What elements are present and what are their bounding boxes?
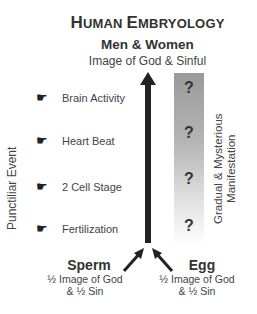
question-mark: ?	[174, 217, 204, 235]
egg-line1: ½ Image of God	[152, 273, 242, 285]
diagram-subtitle: Men & Women	[0, 37, 257, 52]
question-mark: ?	[174, 79, 204, 97]
sperm-line1: ½ Image of God	[40, 273, 130, 285]
question-mark: ?	[174, 170, 204, 188]
sperm-block: Sperm ½ Image of God & ½ Sin	[40, 257, 130, 297]
punctiliar-event-axis-label: Punctiliar Event	[5, 147, 19, 230]
sperm-title: Sperm	[40, 257, 130, 273]
egg-block: Egg ½ Image of God & ½ Sin	[152, 257, 242, 297]
development-arrow-shaft	[145, 84, 151, 243]
event-label-fertilization: Fertilization	[62, 223, 118, 235]
event-label-2-cell-stage: 2 Cell Stage	[62, 181, 122, 193]
question-mark: ?	[174, 124, 204, 142]
pointing-hand-icon: ☛	[36, 181, 52, 193]
sperm-line2: & ½ Sin	[40, 285, 130, 297]
diagram-tagline: Image of God & Sinful	[0, 54, 257, 68]
pointing-hand-icon: ☛	[36, 92, 52, 104]
egg-line2: & ½ Sin	[152, 285, 242, 297]
event-label-heart-beat: Heart Beat	[62, 135, 115, 147]
diagram-title: HUMAN EMBRYOLOGY	[0, 13, 257, 33]
gradual-manifestation-axis-label: Gradual & Mysterious Manifestation	[212, 113, 238, 224]
egg-title: Egg	[152, 257, 242, 273]
event-label-brain-activity: Brain Activity	[62, 92, 125, 104]
pointing-hand-icon: ☛	[36, 135, 52, 147]
pointing-hand-icon: ☛	[36, 223, 52, 235]
